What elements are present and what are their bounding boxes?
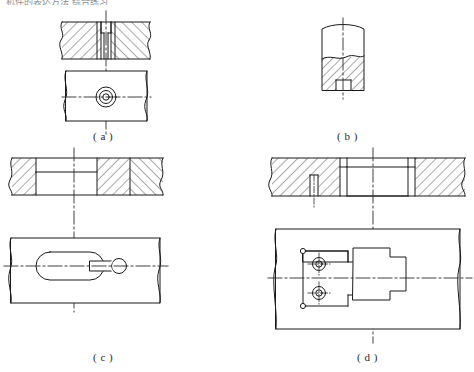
- figure-a: [60, 11, 151, 134]
- blind-hole-void: [336, 80, 351, 90]
- hatch-region-left-end: [12, 158, 36, 195]
- hatch-region-inner-right: [111, 22, 115, 59]
- hatch-region-right: [415, 158, 465, 196]
- hatch-region-right: [115, 22, 150, 59]
- hatch-region-far-left: [272, 158, 300, 196]
- hatch-region-right-a: [97, 158, 130, 195]
- hatch-region-inner-left: [97, 22, 101, 59]
- figure-a-label: ( a ): [93, 130, 113, 142]
- drawing-sheet: 机件的表达方法 综合练习: [0, 0, 474, 372]
- break-line-left: [9, 158, 12, 195]
- engineering-drawing-canvas: [0, 0, 474, 372]
- top-view-outline: [66, 71, 147, 121]
- figure-d-label: ( d ): [357, 351, 378, 363]
- break-line-left: [269, 158, 272, 196]
- figure-c: [4, 148, 168, 312]
- figure-c-label: ( c ): [93, 351, 113, 363]
- figure-c-top-view: [4, 238, 168, 303]
- corner-pin-circle-upper: [300, 248, 305, 253]
- figure-b-label: ( b ): [337, 130, 358, 142]
- corner-pin-circle-lower: [300, 303, 305, 308]
- figure-b: [322, 18, 364, 99]
- hatch-region-left: [300, 158, 340, 196]
- boss-plate-upper: [303, 251, 348, 262]
- figure-a-top-view: [62, 71, 151, 121]
- figure-b-local-section-view: [322, 18, 364, 99]
- figure-d: [268, 148, 472, 343]
- hatch-region-left: [62, 22, 97, 59]
- hatch-region-right-b: [130, 158, 163, 195]
- figure-d-top-view: [268, 229, 472, 329]
